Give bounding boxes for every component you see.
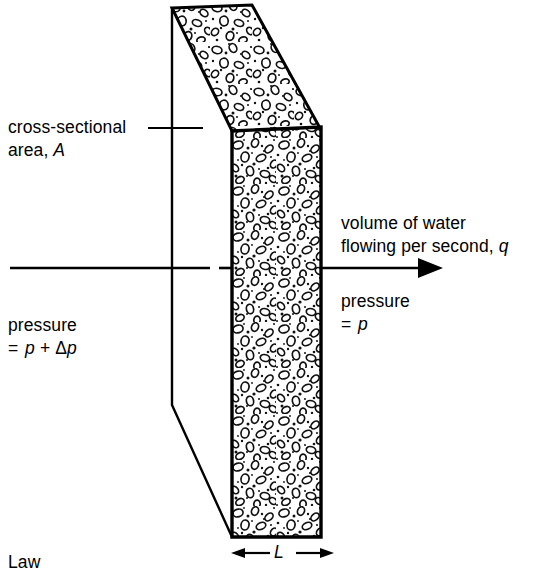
pressure-upstream-delta: Δ <box>55 338 67 358</box>
cross-section-label: cross-sectionalarea, A <box>8 116 126 162</box>
volume-flow-label-line1: volume of water <box>341 213 466 233</box>
slab-top-face <box>172 5 320 131</box>
pressure-downstream-line1: pressure <box>341 291 410 311</box>
length-arrow-right-head-icon <box>320 548 334 558</box>
pressure-upstream-symbol-dp: p <box>67 338 77 358</box>
volume-flow-symbol: q <box>499 236 509 256</box>
slab-diagram-svg <box>0 0 558 581</box>
pressure-upstream-equals: = <box>8 338 25 358</box>
pressure-upstream-label: pressure= p + Δp <box>8 314 77 360</box>
volume-flow-label: volume of waterflowing per second, q <box>341 212 509 258</box>
cross-section-label-line1: cross-sectional <box>8 117 126 137</box>
pressure-upstream-plus: + <box>35 338 55 358</box>
pressure-downstream-symbol: p <box>358 314 368 334</box>
pressure-downstream-label: pressure= p <box>341 290 410 336</box>
volume-flow-label-line2: flowing per second, <box>341 236 499 256</box>
length-symbol: L <box>274 542 284 562</box>
pressure-downstream-equals: = <box>341 314 358 334</box>
length-arrow-left-head-icon <box>231 548 245 558</box>
permeability-diagram-figure: cross-sectionalarea, A volume of waterfl… <box>0 0 558 581</box>
cross-section-label-line2: area, <box>8 140 53 160</box>
length-dimension-label: L <box>274 541 284 564</box>
slab-front-face <box>232 127 321 537</box>
figure-caption: Law <box>8 551 40 574</box>
pressure-upstream-line1: pressure <box>8 315 77 335</box>
cross-section-area-symbol: A <box>53 140 65 160</box>
pressure-upstream-symbol-p: p <box>25 338 35 358</box>
flow-arrow-head-icon <box>418 258 443 278</box>
